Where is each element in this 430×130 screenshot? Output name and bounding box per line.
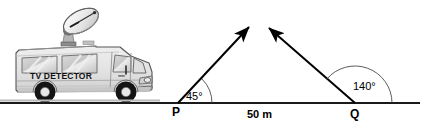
van-headlamp (144, 78, 151, 83)
distance-label-pq: 50 m (247, 108, 272, 120)
bearing-diagram-figure: TV DETECTOR 45° 140° P Q 50 m (0, 0, 430, 130)
angle-label-p: 45° (186, 90, 203, 102)
van-label: TV DETECTOR (30, 71, 92, 81)
point-label-p: P (172, 105, 180, 119)
satellite-dish-icon (59, 3, 102, 46)
van-window-cab (113, 55, 131, 72)
point-label-q: Q (350, 107, 359, 121)
angle-label-q: 140° (353, 80, 376, 92)
angle-arc-p (202, 79, 212, 103)
van-wheel-rear (35, 82, 56, 103)
bearing-ray-from-q (269, 28, 355, 103)
tv-detector-van: TV DETECTOR (16, 3, 152, 103)
van-wheel-front (116, 82, 137, 103)
